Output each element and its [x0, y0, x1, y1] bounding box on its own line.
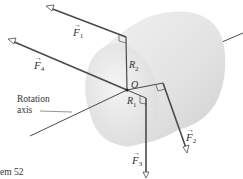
label-f4: →F4 [34, 60, 44, 73]
caption-fragment: em 52 [0, 168, 23, 178]
force-f3-arrowhead-icon [143, 172, 149, 178]
label-f2: →F2 [186, 132, 196, 145]
force-f1-vector [50, 8, 126, 37]
label-f3: →F3 [132, 155, 142, 168]
force-f4-arrowhead-icon [8, 38, 16, 44]
rotation-axis-leader [40, 111, 72, 112]
label-rotation-axis-line2: axis [17, 106, 32, 116]
force-f1-arrowhead-icon [46, 5, 54, 11]
label-origin: O [131, 80, 138, 90]
origin-point [125, 88, 128, 91]
label-f1: →F1 [73, 27, 83, 40]
cylinder-torque-diagram [0, 0, 243, 179]
label-r2: R2 [129, 60, 139, 73]
force-f2-arrowhead-icon [183, 145, 189, 153]
label-r1: R1 [127, 96, 137, 109]
label-rotation-axis-line1: Rotation [17, 95, 50, 105]
